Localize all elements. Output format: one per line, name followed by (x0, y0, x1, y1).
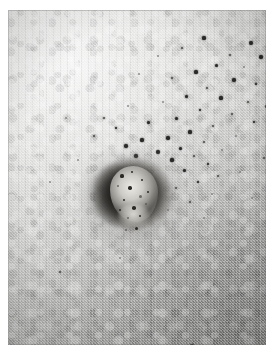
photo-vignette (8, 10, 266, 345)
photo-frame (0, 0, 273, 353)
clinical-photograph-plate (8, 10, 266, 345)
